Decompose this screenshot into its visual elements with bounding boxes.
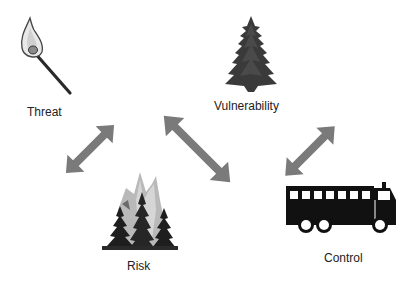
- pine-tree-icon: [222, 14, 280, 94]
- fire-truck-icon: [284, 180, 400, 238]
- threat-risk-double-arrow: [62, 121, 118, 177]
- vulnerability-risk-double-arrow: [160, 114, 234, 184]
- vulnerability-label: Vulnerability: [214, 99, 279, 113]
- risk-label: Risk: [127, 259, 150, 273]
- burning-match-icon: [18, 14, 78, 98]
- control-label: Control: [324, 251, 363, 265]
- threat-label: Threat: [27, 105, 62, 119]
- risk-diagram: Threat Vulnerability Risk: [0, 0, 418, 290]
- vulnerability-control-double-arrow: [281, 122, 339, 180]
